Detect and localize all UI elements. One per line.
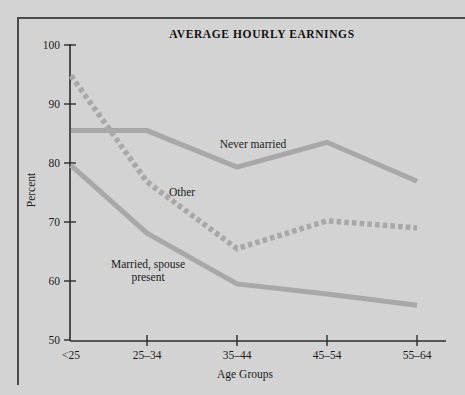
annotation-married-spouse-present-line1: Married, spouse: [111, 258, 185, 271]
x-tick-label-2: 35–44: [223, 349, 252, 361]
y-tick-label-80: 80: [49, 157, 61, 169]
x-tick-label-3: 45–54: [313, 349, 342, 361]
series-line-married-spouse-present: [71, 165, 417, 305]
y-axis-title: Percent: [25, 172, 37, 207]
x-tick-group: <25 25–34 35–44 45–54 55–64: [62, 335, 432, 361]
x-axis-title: Age Groups: [217, 368, 273, 381]
y-tick-label-70: 70: [49, 216, 61, 228]
annotation-married-spouse-present-line2: present: [131, 271, 165, 284]
y-tick-label-50: 50: [49, 334, 61, 346]
annotation-other: Other: [169, 186, 195, 198]
chart-title: AVERAGE HOURLY EARNINGS: [169, 28, 354, 40]
x-tick-label-0: <25: [62, 349, 80, 361]
series-line-other: [71, 76, 417, 249]
y-tick-label-60: 60: [49, 275, 61, 287]
x-tick-label-1: 25–34: [133, 349, 162, 361]
annotation-never-married: Never married: [220, 138, 287, 150]
y-tick-label-90: 90: [49, 98, 61, 110]
y-tick-group: 100 90 80 70 60 50: [43, 39, 76, 346]
x-tick-label-4: 55–64: [403, 349, 432, 361]
y-tick-label-100: 100: [43, 39, 61, 51]
